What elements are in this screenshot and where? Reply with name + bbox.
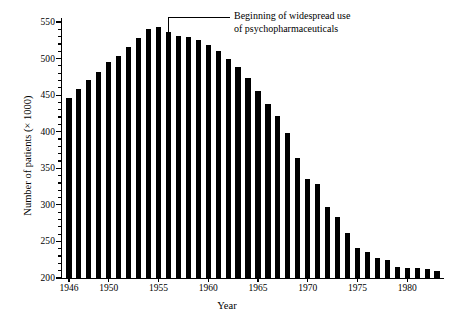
x-tick: [68, 278, 69, 282]
bar: [345, 233, 350, 278]
x-tick: [108, 278, 109, 282]
bar: [146, 29, 151, 278]
annotation-line-1: Beginning of widespread use: [234, 10, 350, 23]
bar: [186, 37, 191, 278]
bar-series: [62, 22, 444, 278]
x-tick: [357, 278, 358, 282]
bar: [136, 38, 141, 278]
bar: [106, 62, 111, 278]
x-tick: [307, 278, 308, 282]
y-tick-label: 200: [40, 273, 55, 283]
bar: [385, 260, 390, 278]
x-tick: [208, 278, 209, 282]
x-tick-label: 1960: [199, 283, 218, 293]
x-tick: [257, 278, 258, 282]
x-tick-label: 1975: [348, 283, 367, 293]
bar: [325, 207, 330, 278]
bar: [275, 116, 280, 278]
bar: [305, 179, 310, 278]
bar: [226, 59, 231, 278]
x-tick: [158, 278, 159, 282]
bar: [375, 258, 380, 278]
x-tick-label: 1950: [99, 283, 118, 293]
bar: [255, 91, 260, 278]
x-tick-label: 1970: [298, 283, 317, 293]
bar: [425, 269, 430, 278]
x-tick-label: 1965: [248, 283, 267, 293]
y-tick-label: 300: [40, 200, 55, 210]
bar: [315, 184, 320, 278]
y-tick-label: 250: [40, 236, 55, 246]
bar: [235, 67, 240, 278]
bar: [66, 98, 71, 278]
x-tick: [407, 278, 408, 282]
y-axis-title: Number of patients (× 1000): [22, 61, 33, 251]
bar: [176, 36, 181, 278]
bar: [86, 80, 91, 278]
bar: [365, 252, 370, 278]
bar: [245, 78, 250, 278]
bar: [415, 268, 420, 278]
bar: [76, 89, 81, 278]
y-tick-label: 350: [40, 163, 55, 173]
bar: [96, 72, 101, 278]
bar: [206, 45, 211, 278]
bar: [405, 268, 410, 278]
bar: [335, 217, 340, 278]
bar: [116, 56, 121, 278]
y-tick-label: 550: [40, 17, 55, 27]
x-tick-label: 1955: [149, 283, 168, 293]
y-tick-label: 450: [40, 90, 55, 100]
bar: [395, 267, 400, 278]
chart-figure: 200250300350400450500550 194619501955196…: [0, 0, 454, 329]
annotation-text: Beginning of widespread use of psychopha…: [234, 10, 350, 35]
x-tick-label: 1980: [398, 283, 417, 293]
bar: [196, 40, 201, 278]
bar: [285, 133, 290, 278]
annotation-leader-vertical: [168, 17, 169, 33]
bar: [156, 27, 161, 278]
annotation-line-2: of psychopharmaceuticals: [234, 23, 350, 36]
annotation-leader-horizontal: [168, 17, 231, 18]
y-tick-label: 500: [40, 54, 55, 64]
bar: [126, 47, 131, 278]
bar: [355, 248, 360, 278]
x-tick-label: 1946: [59, 283, 78, 293]
bar: [295, 158, 300, 278]
y-tick-label: 400: [40, 127, 55, 137]
x-axis-title: Year: [0, 300, 454, 311]
bar: [166, 32, 171, 278]
bar: [434, 271, 439, 278]
bar: [265, 104, 270, 278]
bar: [216, 51, 221, 278]
